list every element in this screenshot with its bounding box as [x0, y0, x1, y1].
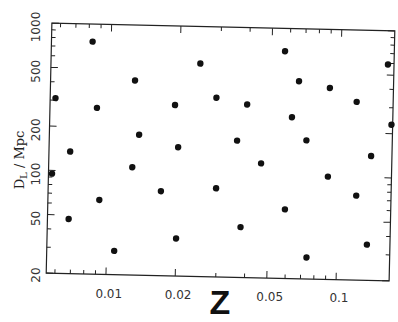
x-tick-label: 0.01 — [95, 287, 122, 301]
y-axis-tick-labels: 20501002005001000 — [29, 12, 43, 283]
scatter-chart: 20501002005001000 0.010.020.050.1 DL / M… — [0, 0, 398, 322]
data-point — [244, 101, 251, 108]
x-tick-label: 0.02 — [165, 288, 192, 302]
data-point — [96, 197, 103, 204]
data-point — [197, 60, 204, 67]
y-tick-label: 20 — [29, 267, 43, 282]
data-point — [94, 105, 101, 112]
data-point — [353, 99, 360, 106]
data-point — [303, 137, 310, 144]
x-tick-label: 0.1 — [329, 291, 348, 305]
plot-frame — [46, 23, 395, 281]
data-point — [129, 164, 136, 171]
data-point — [173, 235, 180, 242]
data-point — [388, 122, 395, 129]
y-tick-label: 200 — [29, 118, 43, 141]
data-point — [237, 224, 244, 231]
chart-canvas: 20501002005001000 0.010.020.050.1 DL / M… — [0, 0, 398, 322]
data-point — [385, 61, 392, 68]
y-tick-label: 100 — [29, 163, 43, 186]
data-point — [158, 188, 165, 195]
data-point — [327, 85, 334, 92]
data-point — [296, 78, 303, 85]
x-tick-label: 0.05 — [256, 290, 283, 304]
y-tick-label: 50 — [29, 211, 43, 226]
data-point — [289, 114, 296, 121]
data-point — [353, 192, 360, 199]
y-axis-ticks — [46, 23, 395, 281]
data-point — [364, 241, 371, 248]
data-point — [65, 216, 72, 223]
data-point — [132, 77, 139, 84]
data-point — [325, 173, 332, 180]
y-axis-label: DL / Mpc — [12, 131, 29, 190]
data-point — [213, 185, 220, 192]
data-point — [111, 248, 118, 255]
data-point — [234, 137, 241, 144]
data-point — [368, 153, 375, 160]
data-point — [303, 254, 310, 261]
data-point — [282, 206, 289, 213]
plot-area — [46, 23, 397, 281]
data-point — [258, 160, 265, 167]
data-point — [172, 102, 179, 109]
data-point — [213, 94, 220, 101]
data-point — [282, 48, 289, 55]
y-tick-label: 1000 — [29, 12, 43, 43]
data-point — [67, 148, 74, 155]
data-points — [47, 37, 396, 262]
data-point — [89, 38, 96, 45]
x-axis-label: Z — [210, 283, 231, 321]
data-point — [49, 170, 56, 177]
data-point — [175, 144, 182, 151]
y-tick-label: 500 — [29, 60, 43, 83]
data-point — [136, 131, 143, 138]
